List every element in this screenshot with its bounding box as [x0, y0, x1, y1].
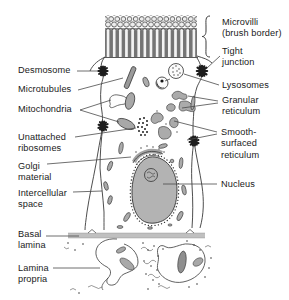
nucleolus-shape [145, 169, 158, 182]
right-membrane-inner [192, 141, 194, 228]
fibroblast-rod [177, 251, 188, 274]
organelles [103, 64, 196, 230]
basal-lamina-shape [68, 230, 205, 239]
label-golgi-material: Golgi material [18, 161, 51, 184]
label-unattached-ribosomes: Unattached ribosomes [18, 132, 66, 155]
label-smooth-surfaced-reticulum: Smooth- surfaced reticulum [221, 127, 259, 161]
epithelial-cell-diagram: Desmosome Microtubules Mitochondria Unat… [0, 0, 289, 300]
label-intercellular-space: Intercellular space [18, 188, 67, 211]
label-mitochondria: Mitochondria [18, 104, 72, 115]
leader-golgi [47, 157, 131, 164]
desmosome-shape-upper [98, 66, 107, 75]
leader-microtubules [78, 78, 123, 90]
label-desmosome: Desmosome [18, 65, 70, 76]
desmosome-shape-lower [97, 120, 108, 131]
lamina-propria-shapes [64, 239, 212, 294]
left-membrane-outer [85, 126, 103, 230]
tight-junction-shape [197, 66, 207, 76]
label-lamina-propria: Lamina propria [18, 263, 49, 286]
right-membrane-outer [194, 141, 203, 228]
granular-reticulum-shapes [167, 91, 196, 111]
smooth-reticulum-shapes [151, 110, 178, 139]
nucleus-shape [130, 154, 178, 225]
label-basal-lamina: Basal lamina [18, 229, 46, 252]
label-microvilli: Microvilli (brush border) [222, 17, 282, 40]
label-lysosomes: Lysosomes [222, 80, 269, 91]
label-tight-junction: Tight junction [222, 46, 254, 69]
lysosome-shapes [156, 64, 184, 90]
left-membrane-inner [100, 126, 104, 230]
microtubule-shape [124, 66, 151, 89]
desmosome-shape-right [189, 136, 200, 147]
label-nucleus: Nucleus [221, 179, 255, 190]
matrix-dots [67, 240, 212, 294]
ribosome-dots [137, 117, 148, 136]
leader-tight-junction [207, 56, 220, 68]
label-microtubules: Microtubules [18, 84, 71, 95]
microvilli-illustration [104, 15, 198, 58]
leader-intercellular-space [73, 191, 102, 192]
microvilli-brace [202, 16, 210, 57]
mitochondria-shapes [110, 92, 137, 132]
label-granular-reticulum: Granular reticulum [222, 95, 260, 118]
lamina-propria-cell-left [96, 239, 138, 285]
